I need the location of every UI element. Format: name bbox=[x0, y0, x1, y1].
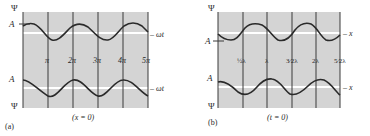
panel-b-amplitude-label-top: A bbox=[204, 36, 211, 46]
panel-a-amplitude-label-top: A bbox=[8, 19, 15, 29]
panel-b: Ψ A A Ψ – x – x ½λ λ 3⁄2λ 2λ 5⁄2λ (t = 0… bbox=[204, 3, 353, 127]
panel-b-axis-variable-bottom: – x bbox=[342, 83, 353, 92]
panel-a-psi-top-label: Ψ bbox=[11, 3, 18, 13]
tick-label: 3π bbox=[92, 56, 102, 65]
tick-label: 2π bbox=[68, 56, 77, 65]
panel-a-label: (a) bbox=[5, 122, 14, 131]
tick-label: 5⁄2λ bbox=[334, 57, 346, 65]
tick-label: 4π bbox=[118, 56, 127, 65]
tick-label: 5π bbox=[142, 56, 151, 65]
panel-a-axis-variable-top: – ωt bbox=[149, 30, 165, 39]
panel-b-psi-bottom-label: Ψ bbox=[208, 101, 215, 111]
panel-a-amplitude-label-bottom: A bbox=[8, 74, 15, 84]
panel-a: Ψ A A Ψ – ωt – ωt π 2π 3π 4π 5π (x = 0) … bbox=[5, 3, 165, 131]
tick-label: 3⁄2λ bbox=[286, 57, 298, 65]
panel-b-psi-top-label: Ψ bbox=[208, 3, 215, 13]
panel-a-axis-variable-bottom: – ωt bbox=[149, 84, 165, 93]
panel-b-caption: (t = 0) bbox=[267, 113, 288, 122]
tick-label: λ bbox=[265, 57, 269, 65]
panel-b-label: (b) bbox=[208, 118, 218, 127]
wave-figure: Ψ A A Ψ – ωt – ωt π 2π 3π 4π 5π (x = 0) … bbox=[0, 0, 370, 136]
panel-a-caption: (x = 0) bbox=[72, 113, 95, 122]
panel-b-axis-variable-top: – x bbox=[342, 29, 353, 38]
tick-label: ½λ bbox=[237, 57, 246, 65]
panel-a-psi-bottom-label: Ψ bbox=[11, 101, 18, 111]
panel-b-amplitude-label-bottom: A bbox=[206, 73, 213, 83]
tick-label: 2λ bbox=[312, 57, 320, 65]
